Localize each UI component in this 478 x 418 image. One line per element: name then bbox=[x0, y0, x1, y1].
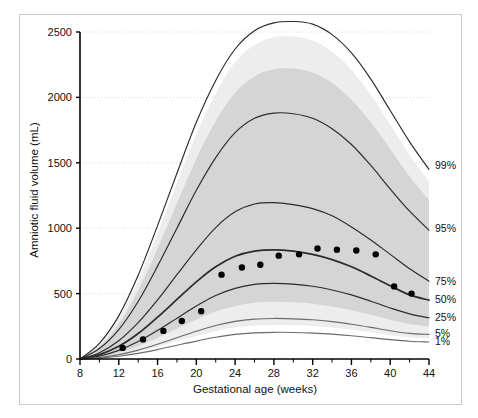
data-point bbox=[119, 345, 125, 351]
percentile-label-25pct: 25% bbox=[435, 311, 456, 323]
x-axis-title: Gestational age (weeks) bbox=[193, 383, 317, 395]
x-tick-label: 40 bbox=[384, 367, 396, 379]
x-tick-label: 28 bbox=[268, 367, 280, 379]
x-tick-label: 32 bbox=[307, 367, 319, 379]
data-point bbox=[296, 251, 302, 257]
figure-frame: 8121620242832364044 05001000150020002500… bbox=[19, 14, 462, 405]
percentile-label-75pct: 75% bbox=[435, 275, 456, 287]
y-axis-tick-labels: 05001000150020002500 bbox=[48, 26, 72, 365]
data-point bbox=[218, 271, 224, 277]
y-tick-label: 500 bbox=[54, 288, 72, 300]
x-tick-label: 24 bbox=[229, 367, 241, 379]
percentile-label-99pct: 99% bbox=[435, 159, 456, 171]
x-tick-label: 16 bbox=[151, 367, 163, 379]
data-point bbox=[198, 308, 204, 314]
data-point bbox=[276, 252, 282, 258]
y-tick-label: 2500 bbox=[48, 26, 72, 38]
x-tick-label: 44 bbox=[423, 367, 435, 379]
data-point bbox=[314, 245, 320, 251]
data-point bbox=[140, 336, 146, 342]
data-point bbox=[179, 318, 185, 324]
x-axis-tick-labels: 8121620242832364044 bbox=[77, 367, 435, 379]
data-point bbox=[334, 247, 340, 253]
y-tick-label: 0 bbox=[66, 353, 72, 365]
data-point bbox=[257, 262, 263, 268]
amniotic-fluid-percentile-chart: 8121620242832364044 05001000150020002500… bbox=[20, 15, 461, 404]
y-axis-title: Amniotic fluid volume (mL) bbox=[28, 122, 40, 258]
data-point bbox=[353, 247, 359, 253]
percentile-labels: 99%95%75%50%25%5%1% bbox=[435, 159, 456, 347]
x-tick-label: 20 bbox=[190, 367, 202, 379]
y-tick-label: 2000 bbox=[48, 91, 72, 103]
data-point bbox=[239, 264, 245, 270]
x-tick-label: 12 bbox=[113, 367, 125, 379]
data-point bbox=[160, 328, 166, 334]
percentile-label-95pct: 95% bbox=[435, 222, 456, 234]
x-tick-label: 8 bbox=[77, 367, 83, 379]
percentile-label-50pct: 50% bbox=[435, 293, 456, 305]
percentile-label-1pct: 1% bbox=[435, 335, 450, 347]
data-point bbox=[372, 251, 378, 257]
y-tick-label: 1500 bbox=[48, 157, 72, 169]
y-tick-label: 1000 bbox=[48, 222, 72, 234]
figure-root: 8121620242832364044 05001000150020002500… bbox=[0, 0, 478, 418]
data-point bbox=[408, 290, 414, 296]
data-point bbox=[391, 283, 397, 289]
x-tick-label: 36 bbox=[345, 367, 357, 379]
